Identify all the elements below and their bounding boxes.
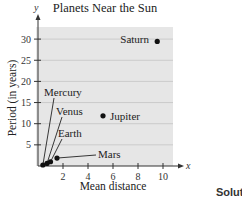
x-tick-label: 2 (61, 171, 66, 182)
y-tick-label: 10 (21, 118, 31, 129)
x-tick-label: 10 (158, 171, 168, 182)
y-tick-label: 20 (21, 76, 31, 87)
point-label-earth: Earth (58, 127, 82, 139)
point-label-jupiter: Jupiter (110, 110, 140, 122)
y-tick-label: 15 (21, 97, 31, 108)
x-tick-label: 6 (111, 171, 116, 182)
x-axis-arrow-icon (178, 164, 184, 169)
x-tick-label: 4 (86, 171, 91, 182)
data-point-earth (48, 159, 53, 164)
y-axis-arrow-icon (36, 14, 41, 20)
point-label-saturn: Saturn (120, 33, 149, 45)
scatter-plot: xy24681051015202530MercuryVenusEarthMars… (0, 0, 242, 200)
data-point-mars (54, 155, 59, 160)
point-label-venus: Venus (56, 105, 83, 117)
y-tick-label: 5 (26, 139, 31, 150)
x-tick-label: 8 (136, 171, 141, 182)
point-label-mercury: Mercury (44, 86, 82, 98)
data-point-saturn (155, 39, 160, 44)
y-tick-label: 30 (21, 34, 31, 45)
y-tick-label: 25 (21, 55, 31, 66)
y-axis-symbol: y (33, 2, 39, 13)
point-label-mars: Mars (98, 148, 121, 160)
data-point-jupiter (100, 113, 105, 118)
x-axis-symbol: x (185, 160, 191, 171)
